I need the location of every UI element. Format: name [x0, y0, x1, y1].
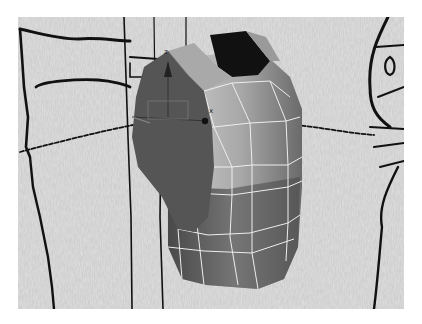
- gizmo-z-label: z: [164, 48, 168, 56]
- gizmo-x-label: x: [209, 107, 213, 115]
- 3d-viewport[interactable]: z x: [18, 17, 404, 309]
- gizmo-x-handle-icon[interactable]: [202, 118, 208, 124]
- viewport-canvas[interactable]: [18, 17, 404, 309]
